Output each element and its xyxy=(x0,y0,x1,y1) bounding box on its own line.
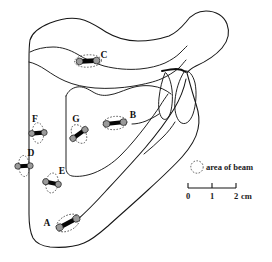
site-A[interactable]: A xyxy=(44,211,83,236)
site-label-F: F xyxy=(32,114,38,124)
marker-D xyxy=(15,163,34,170)
marker-F xyxy=(29,129,48,136)
site-label-A: A xyxy=(44,218,51,228)
site-label-D: D xyxy=(28,148,35,158)
infraspinous-fossa-border xyxy=(66,94,168,176)
site-label-G: G xyxy=(72,114,80,124)
scale-tick-label-2: 2 xyxy=(234,191,238,201)
marker-end-left-C xyxy=(76,58,83,65)
scapula-outline-group xyxy=(29,11,228,247)
scapula-body-outline xyxy=(29,11,228,247)
measurement-sites-group: A B C xyxy=(15,50,137,235)
site-E[interactable]: E xyxy=(42,166,65,194)
marker-end-right-D xyxy=(27,163,33,169)
coracoid-process xyxy=(159,73,173,119)
site-D[interactable]: D xyxy=(15,148,35,177)
marker-end-left-D xyxy=(15,163,21,169)
legend-beam-circle-icon xyxy=(191,161,203,173)
scale-tick-label-1: 1 xyxy=(210,191,214,201)
supraspinous-ridge xyxy=(30,46,187,69)
site-label-B: B xyxy=(130,110,137,120)
site-label-C: C xyxy=(101,50,108,60)
scale-unit-label: cm xyxy=(241,191,252,201)
scapular-neck-lower xyxy=(144,122,175,154)
site-F[interactable]: F xyxy=(29,114,48,143)
diagram-canvas: A B C xyxy=(0,0,272,262)
marker-end-right-F xyxy=(41,129,47,135)
glenoid-cavity xyxy=(175,71,196,124)
marker-B xyxy=(103,118,127,127)
marker-end-right-C xyxy=(93,57,100,64)
scale-bar-group: 0 1 2 cm xyxy=(186,183,252,201)
legend-label: area of beam xyxy=(206,162,253,172)
marker-E xyxy=(42,178,62,188)
infraspinous-fossa-contour xyxy=(66,86,171,96)
site-B[interactable]: B xyxy=(102,110,136,131)
marker-end-left-B xyxy=(103,120,110,127)
site-label-E: E xyxy=(59,166,65,176)
legend-group: area of beam xyxy=(191,161,253,173)
site-G[interactable]: G xyxy=(68,114,90,146)
marker-end-right-B xyxy=(120,118,127,125)
marker-C xyxy=(76,57,100,65)
marker-A xyxy=(55,214,82,233)
marker-end-left-F xyxy=(29,130,35,136)
scapula-beam-diagram: A B C xyxy=(0,0,272,262)
lateral-border xyxy=(76,79,186,221)
scale-tick-label-0: 0 xyxy=(186,191,190,201)
